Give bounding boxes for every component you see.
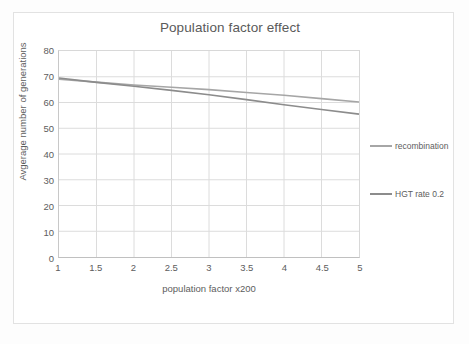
legend-line-swatch-icon	[370, 193, 392, 195]
population-factor-effect-chart: Population factor effect 010203040506070…	[0, 0, 469, 344]
legend-label: recombination	[395, 141, 448, 151]
chart-title: Population factor effect	[80, 20, 380, 35]
plot-area	[58, 50, 360, 258]
y-tick-label: 70	[28, 71, 54, 82]
x-tick-label: 5	[343, 262, 377, 273]
y-tick-label: 30	[28, 175, 54, 186]
chart-legend: recombinationHGT rate 0.2	[370, 140, 466, 236]
x-tick-label: 3	[192, 262, 226, 273]
x-axis-title: population factor x200	[58, 283, 360, 294]
y-tick-label: 50	[28, 123, 54, 134]
y-tick-label: 20	[28, 201, 54, 212]
x-tick-label: 4.5	[305, 262, 339, 273]
x-tick-label: 4	[268, 262, 302, 273]
series-line-1	[59, 78, 359, 114]
legend-entry: HGT rate 0.2	[370, 188, 466, 200]
legend-entry: recombination	[370, 140, 466, 152]
y-tick-label: 40	[28, 149, 54, 160]
data-series-lines	[59, 51, 359, 257]
x-tick-label: 1.5	[79, 262, 113, 273]
x-tick-label: 2	[117, 262, 151, 273]
x-axis-tick-labels: 11.522.533.544.55	[58, 262, 360, 278]
y-tick-label: 10	[28, 227, 54, 238]
x-tick-label: 1	[41, 262, 75, 273]
x-tick-label: 3.5	[230, 262, 264, 273]
x-tick-label: 2.5	[154, 262, 188, 273]
legend-label: HGT rate 0.2	[395, 189, 444, 199]
y-tick-label: 60	[28, 97, 54, 108]
legend-line-swatch-icon	[370, 145, 392, 147]
y-tick-label: 80	[28, 45, 54, 56]
y-axis-title: Avgerage number of generations	[17, 32, 28, 192]
